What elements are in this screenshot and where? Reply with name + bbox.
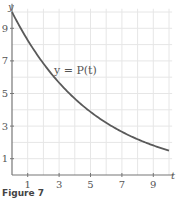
- y-axis-label: y: [7, 1, 14, 12]
- y-tick-label: 9: [2, 23, 8, 34]
- x-tick-label: 9: [150, 179, 156, 190]
- y-tick-label: 3: [2, 121, 8, 132]
- x-tick-label: 5: [87, 179, 93, 190]
- ticks: 1357913579: [2, 23, 157, 190]
- y-tick-label: 5: [2, 88, 8, 99]
- grid: [12, 9, 172, 175]
- x-tick-label: 7: [119, 179, 125, 190]
- chart: 1357913579 t y y = P(t): [0, 0, 177, 200]
- curve-label: y = P(t): [53, 64, 97, 77]
- x-axis-label: t: [171, 170, 176, 181]
- y-tick-label: 1: [2, 153, 8, 164]
- figure-caption: Figure 7: [2, 188, 44, 198]
- y-tick-label: 7: [2, 55, 8, 66]
- axes: [12, 4, 174, 175]
- x-tick-label: 3: [56, 179, 62, 190]
